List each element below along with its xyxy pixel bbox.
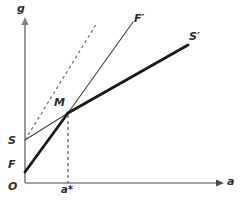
s-prime-thick-lower <box>25 113 68 172</box>
m-point-label: M <box>54 97 65 108</box>
diagram-canvas <box>0 0 245 206</box>
x-axis-label: a <box>227 176 234 187</box>
y-axis <box>21 17 28 183</box>
y-axis-label: g <box>17 3 25 14</box>
s-curve-lower-segment <box>25 113 68 140</box>
s-prime-thick-upper <box>68 45 188 113</box>
origin-label: O <box>8 181 17 192</box>
s-intercept-label: S <box>8 135 16 146</box>
a-star-tick-label: a* <box>61 185 73 195</box>
f-prime-label: F′ <box>134 13 144 24</box>
y-axis-arrow-icon <box>21 17 28 25</box>
x-axis <box>25 179 224 186</box>
s-prime-label: S′ <box>189 31 200 42</box>
f-intercept-label: F <box>8 159 16 170</box>
economics-diagram-figure: g a O S F F′ S′ M a* <box>0 0 245 206</box>
x-axis-arrow-icon <box>216 179 224 186</box>
